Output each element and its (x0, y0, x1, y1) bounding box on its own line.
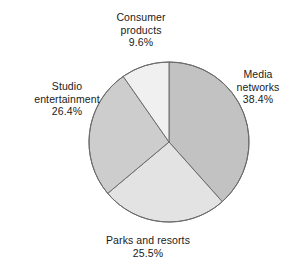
pie-label-parks-and-resorts: Parks and resorts 25.5% (78, 234, 218, 259)
pie-label-consumer-products-percent: 9.6% (86, 36, 196, 49)
pie-label-consumer-products-line1: Consumer (86, 11, 196, 24)
pie-label-media-networks: Media networks 38.4% (216, 68, 300, 106)
pie-label-studio-entertainment-percent: 26.4% (6, 105, 128, 118)
pie-label-consumer-products-line2: products (86, 24, 196, 37)
pie-label-media-networks-percent: 38.4% (216, 93, 300, 106)
pie-label-media-networks-line2: networks (216, 81, 300, 94)
pie-label-studio-entertainment: Studio entertainment 26.4% (6, 80, 128, 118)
pie-label-studio-entertainment-line1: Studio (6, 80, 128, 93)
pie-label-parks-and-resorts-percent: 25.5% (78, 247, 218, 260)
pie-label-parks-and-resorts-line1: Parks and resorts (78, 234, 218, 247)
pie-label-consumer-products: Consumer products 9.6% (86, 11, 196, 49)
pie-label-media-networks-line1: Media (216, 68, 300, 81)
pie-chart: Consumer products 9.6% Media networks 38… (0, 0, 304, 271)
pie-label-studio-entertainment-line2: entertainment (6, 93, 128, 106)
